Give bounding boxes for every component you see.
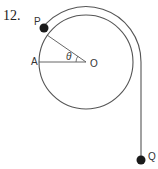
pulley-diagram — [0, 0, 158, 169]
label-a: A — [31, 57, 38, 67]
label-q: Q — [148, 152, 156, 162]
angle-arc — [76, 56, 78, 62]
mass-q — [137, 156, 146, 165]
label-p: P — [34, 17, 41, 27]
label-o: O — [90, 59, 98, 69]
string — [41, 7, 141, 160]
label-theta: θ — [66, 52, 71, 62]
